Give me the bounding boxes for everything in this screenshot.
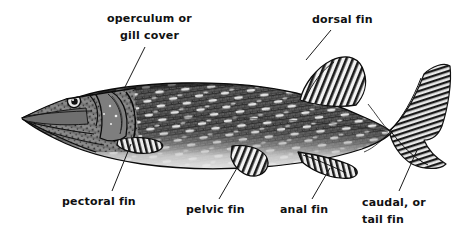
anal-fin-label-line1: anal fin bbox=[280, 203, 328, 216]
caudal-fin-label-line1: caudal, or bbox=[362, 196, 426, 209]
operculum-label: operculum or gill cover bbox=[107, 10, 192, 44]
dorsal-fin-label: dorsal fin bbox=[312, 11, 373, 28]
caudal-fin-label: caudal, or tail fin bbox=[362, 194, 426, 228]
caudal-fin-shape bbox=[389, 64, 451, 168]
pectoral-fin-label: pectoral fin bbox=[62, 193, 136, 210]
dorsal-fin-shape bbox=[300, 57, 366, 107]
operculum-label-line2: gill cover bbox=[107, 27, 192, 44]
leader-line-pelvic bbox=[219, 168, 237, 199]
operculum-label-line1: operculum or bbox=[107, 12, 192, 25]
anal-fin-label: anal fin bbox=[280, 201, 328, 218]
dorsal-fin-label-line1: dorsal fin bbox=[312, 13, 373, 26]
fish-anatomy-figure: operculum or gill cover dorsal fin pecto… bbox=[0, 0, 458, 231]
leader-line-operculum bbox=[125, 47, 145, 87]
pelvic-fin-label: pelvic fin bbox=[186, 201, 245, 218]
caudal-fin-label-line2: tail fin bbox=[362, 211, 426, 228]
leader-line-dorsal bbox=[306, 30, 331, 60]
pelvic-fin-label-line1: pelvic fin bbox=[186, 203, 245, 216]
pectoral-fin-label-line1: pectoral fin bbox=[62, 195, 136, 208]
